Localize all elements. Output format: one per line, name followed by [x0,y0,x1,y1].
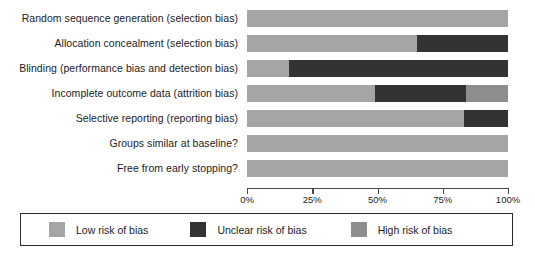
stacked-bar [247,35,508,52]
chart-row: Incomplete outcome data (attrition bias) [0,81,535,106]
stacked-bar [247,135,508,152]
legend-label: Low risk of bias [76,224,148,236]
bar-segment-high-risk-of-bias [466,85,508,102]
stacked-bar [247,10,508,27]
bar-segment-low-risk-of-bias [247,10,508,27]
row-label: Selective reporting (reporting bias) [0,106,238,131]
bar-segment-low-risk-of-bias [247,35,417,52]
bar-segment-unclear-risk-of-bias [464,110,508,127]
chart-row: Groups similar at baseline? [0,131,535,156]
axis-tick-label: 75% [433,194,452,205]
axis-tick-label: 100% [496,194,520,205]
chart-row: Blinding (performance bias and detection… [0,56,535,81]
legend-swatch-icon [351,222,367,237]
chart-row: Allocation concealment (selection bias) [0,31,535,56]
legend-item: Low risk of bias [49,222,148,237]
legend-label: Unclear risk of bias [217,224,306,236]
bar-segment-unclear-risk-of-bias [417,35,508,52]
row-label: Groups similar at baseline? [0,131,238,156]
chart-row: Free from early stopping? [0,156,535,181]
stacked-bar [247,60,508,77]
row-label: Allocation concealment (selection bias) [0,31,238,56]
legend-label: High risk of bias [378,224,453,236]
chart-row: Selective reporting (reporting bias) [0,106,535,131]
bar-segment-unclear-risk-of-bias [375,85,466,102]
legend-item: Unclear risk of bias [190,222,306,237]
plot-area: Random sequence generation (selection bi… [0,0,535,186]
risk-of-bias-chart: Random sequence generation (selection bi… [0,0,535,255]
stacked-bar [247,160,508,177]
row-label: Incomplete outcome data (attrition bias) [0,81,238,106]
stacked-bar [247,85,508,102]
bar-segment-low-risk-of-bias [247,85,375,102]
bar-segment-unclear-risk-of-bias [289,60,508,77]
legend: Low risk of biasUnclear risk of biasHigh… [20,213,513,246]
bar-segment-low-risk-of-bias [247,60,289,77]
bar-segment-low-risk-of-bias [247,160,508,177]
bar-segment-low-risk-of-bias [247,135,508,152]
row-label: Blinding (performance bias and detection… [0,56,238,81]
legend-swatch-icon [49,222,65,237]
axis-tick-label: 50% [368,194,387,205]
row-label: Random sequence generation (selection bi… [0,6,238,31]
legend-swatch-icon [190,222,206,237]
chart-row: Random sequence generation (selection bi… [0,6,535,31]
row-label: Free from early stopping? [0,156,238,181]
axis-tick-label: 0% [240,194,254,205]
axis-tick-label: 25% [303,194,322,205]
stacked-bar [247,110,508,127]
legend-item: High risk of bias [351,222,453,237]
bar-segment-low-risk-of-bias [247,110,464,127]
